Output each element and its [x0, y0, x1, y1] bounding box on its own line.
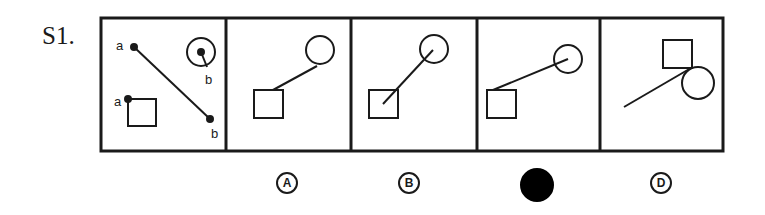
endpoint-b: [207, 116, 213, 122]
option-a-button[interactable]: A: [276, 172, 298, 194]
option-a-panel: [254, 36, 334, 118]
figure-frame: [101, 18, 723, 151]
square-corner-a: [125, 96, 131, 102]
endpoint-a: [131, 44, 137, 50]
option-d-button[interactable]: D: [650, 172, 672, 194]
stem-square: [128, 99, 156, 126]
option-c-button-selected[interactable]: [520, 168, 554, 202]
option-c-panel: [487, 45, 582, 118]
label-b-bottom: b: [211, 126, 218, 141]
option-d-panel: [624, 40, 714, 107]
stem-panel: [125, 38, 215, 126]
option-b-button[interactable]: B: [398, 172, 420, 194]
label-b-circle: b: [205, 72, 212, 87]
label-a-square: a: [114, 94, 122, 109]
label-a-top: a: [116, 38, 124, 53]
option-b-panel: [369, 35, 448, 118]
segment-ab: [134, 47, 210, 119]
